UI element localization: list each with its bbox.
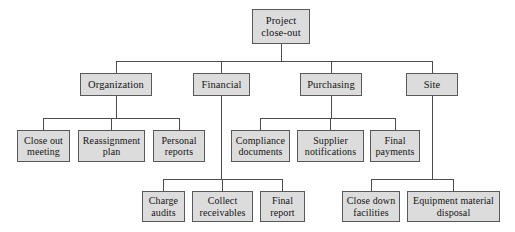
node-final-payments[interactable]: Final payments xyxy=(370,130,420,162)
node-organization[interactable]: Organization xyxy=(80,73,152,96)
node-label: Reassignment plan xyxy=(81,135,142,157)
node-supplier-notifications[interactable]: Supplier notifications xyxy=(297,130,364,162)
node-personal-reports[interactable]: Personal reports xyxy=(153,130,205,162)
wbs-diagram: Project close-out Organization Financial… xyxy=(0,0,515,232)
node-charge-audits[interactable]: Charge audits xyxy=(142,191,185,222)
node-project-close-out[interactable]: Project close-out xyxy=(252,9,310,44)
node-label: Charge audits xyxy=(145,195,182,217)
node-label: Supplier notifications xyxy=(300,135,361,157)
node-label: Final report xyxy=(263,195,302,217)
node-label: Equipment material disposal xyxy=(410,195,497,217)
node-purchasing[interactable]: Purchasing xyxy=(300,73,362,96)
node-label: Organization xyxy=(83,79,149,91)
node-label: Final payments xyxy=(373,135,417,157)
node-label: Personal reports xyxy=(156,135,202,157)
node-label: Close down facilities xyxy=(345,195,397,217)
node-label: Site xyxy=(409,79,455,91)
node-close-out-meeting[interactable]: Close out meeting xyxy=(17,130,70,162)
node-label: Financial xyxy=(196,79,247,91)
node-final-report[interactable]: Final report xyxy=(260,191,305,222)
node-compliance-documents[interactable]: Compliance documents xyxy=(231,130,290,162)
node-label: Compliance documents xyxy=(234,135,287,157)
node-reassignment-plan[interactable]: Reassignment plan xyxy=(78,130,145,162)
node-label: Purchasing xyxy=(303,79,359,91)
node-financial[interactable]: Financial xyxy=(193,73,250,96)
node-collect-receivables[interactable]: Collect receivables xyxy=(192,191,253,222)
node-close-down-facilities[interactable]: Close down facilities xyxy=(342,191,400,222)
node-label: Project close-out xyxy=(255,15,307,39)
node-site[interactable]: Site xyxy=(406,73,458,96)
node-label: Collect receivables xyxy=(195,195,250,217)
node-label: Close out meeting xyxy=(20,135,67,157)
node-equipment-material-disposal[interactable]: Equipment material disposal xyxy=(407,191,500,222)
